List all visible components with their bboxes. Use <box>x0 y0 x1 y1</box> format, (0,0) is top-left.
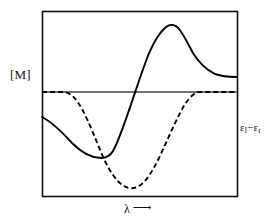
ord-cd-figure: [M] εl−εr λ⟶ <box>0 0 278 224</box>
y-axis-label: [M] <box>10 68 31 81</box>
lambda-symbol: λ <box>124 202 130 216</box>
x-axis-label: λ⟶ <box>124 201 151 215</box>
plot-frame <box>43 12 238 197</box>
right-arrow-icon: ⟶ <box>133 201 152 214</box>
epsilon-right-subscript: r <box>258 126 261 135</box>
right-axis-label: εl−εr <box>240 122 261 135</box>
plot-canvas <box>0 0 278 224</box>
